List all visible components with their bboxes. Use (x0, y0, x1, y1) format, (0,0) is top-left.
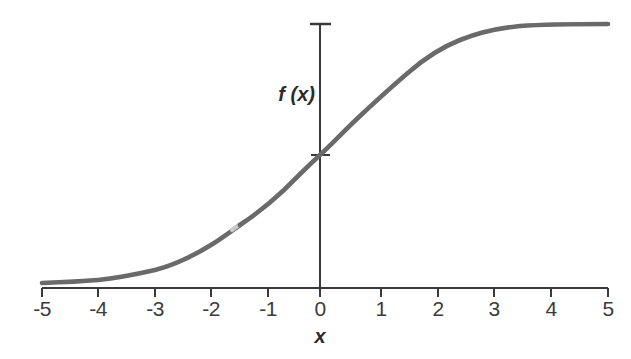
sigmoid-chart-figure: -5 -4 -3 -2 -1 0 1 2 3 4 5 x f (x) (0, 0, 631, 359)
x-axis-ticks (42, 288, 608, 297)
x-tick-label--1: -1 (248, 297, 288, 321)
sigmoid-curve-right (240, 24, 608, 225)
x-tick-label-4: 4 (531, 297, 571, 321)
x-tick-label-2: 2 (418, 297, 458, 321)
x-tick-label-1: 1 (361, 297, 401, 321)
x-tick-label-0: 0 (300, 297, 340, 321)
y-axis-label: f (x) (215, 83, 315, 106)
x-tick-label-5: 5 (588, 297, 628, 321)
x-tick-label--3: -3 (135, 297, 175, 321)
x-axis-label: x (300, 325, 340, 348)
x-tick-label--4: -4 (78, 297, 118, 321)
sigmoid-curve (42, 24, 608, 283)
x-tick-label--2: -2 (191, 297, 231, 321)
x-tick-label-3: 3 (474, 297, 514, 321)
sigmoid-curve-left (42, 225, 240, 283)
x-tick-label--5: -5 (22, 297, 62, 321)
